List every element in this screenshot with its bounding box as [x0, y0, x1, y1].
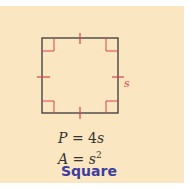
side-label: s — [124, 77, 130, 90]
area-exponent: 2 — [96, 150, 102, 160]
perimeter-formula: P = 4s — [58, 130, 128, 146]
perimeter-var: P — [58, 130, 67, 146]
equals-sign: = — [72, 130, 84, 146]
perimeter-coef: 4 — [88, 130, 97, 146]
right-angle-marks — [42, 38, 118, 113]
perimeter-term: s — [97, 130, 104, 146]
shape-name: Square — [61, 163, 117, 179]
congruence-ticks — [37, 33, 124, 119]
square-outline — [42, 38, 118, 113]
